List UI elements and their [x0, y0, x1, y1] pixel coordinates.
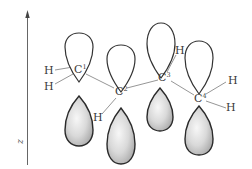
atom-label-h4a: H	[228, 74, 238, 87]
atom-label-c3: C3	[158, 71, 171, 84]
z-axis-label: z	[15, 139, 25, 145]
p-orbital-lower-lobe-c1	[65, 96, 93, 146]
bond-c1-h1b	[55, 74, 73, 84]
atom-label-h3: H	[175, 44, 185, 57]
p-orbital-lower-lobe-c2	[107, 108, 135, 164]
p-orbital-upper-lobe-c4	[185, 41, 213, 94]
p-orbital-upper-lobe-c3	[147, 23, 175, 78]
lower-lobes	[65, 88, 213, 164]
bond-c1-c2	[86, 74, 114, 88]
p-orbital-lower-lobe-c4	[185, 106, 213, 155]
p-orbital-lower-lobe-c3	[147, 88, 173, 131]
bond-c4-h4a	[206, 82, 226, 94]
butadiene-p-orbital-diagram: z C1 C2 C3 C4 H H H H	[0, 0, 252, 169]
z-axis: z	[15, 10, 30, 165]
bond-c4-h4b	[206, 101, 226, 108]
atom-label-h2: H	[93, 111, 103, 124]
atom-label-c4: C4	[194, 92, 207, 105]
bond-c3-c4	[171, 81, 194, 95]
upper-lobes	[65, 23, 213, 94]
atom-label-h1a: H	[44, 64, 54, 77]
atom-label-h1b: H	[44, 80, 54, 93]
bond-c2-c3	[127, 80, 158, 88]
atom-label-h4b: H	[226, 101, 236, 114]
atom-label-c2: C2	[115, 85, 128, 98]
carbon-backbone	[86, 74, 194, 95]
bond-c2-h2	[102, 98, 116, 114]
z-axis-arrow-icon	[25, 10, 29, 18]
